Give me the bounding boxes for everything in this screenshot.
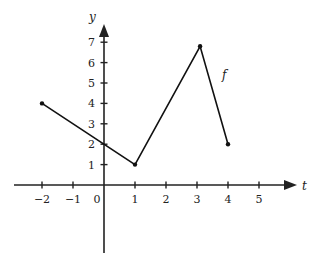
x-tick-label: −2 <box>34 193 50 206</box>
y-tick-label: 6 <box>88 57 95 70</box>
x-tick-label: 2 <box>163 193 170 206</box>
x-tick-label: 5 <box>256 193 263 206</box>
y-tick-label: 7 <box>88 36 95 49</box>
y-tick-label: 3 <box>88 118 95 131</box>
y-tick-label: 2 <box>88 138 95 151</box>
x-tick-label: −1 <box>65 193 81 206</box>
y-tick-label: 1 <box>88 159 95 172</box>
x-tick-label: 0 <box>94 193 101 206</box>
y-tick-label: 4 <box>88 97 95 110</box>
y-axis-label: y <box>88 10 96 24</box>
function-f-label: f <box>221 68 229 82</box>
y-tick-label: 5 <box>88 77 95 90</box>
function-f-line <box>42 46 228 164</box>
x-axis-arrow-icon <box>284 180 297 190</box>
x-tick-label: 1 <box>132 193 139 206</box>
chart: t y −2−1012345 1234567 f <box>0 0 317 264</box>
x-axis-label: t <box>302 179 307 193</box>
x-axis: t <box>14 179 307 193</box>
y-axis-arrow-icon <box>99 24 109 37</box>
x-tick-label: 3 <box>194 193 201 206</box>
function-f-points <box>40 44 230 167</box>
x-tick-label: 4 <box>225 193 232 206</box>
